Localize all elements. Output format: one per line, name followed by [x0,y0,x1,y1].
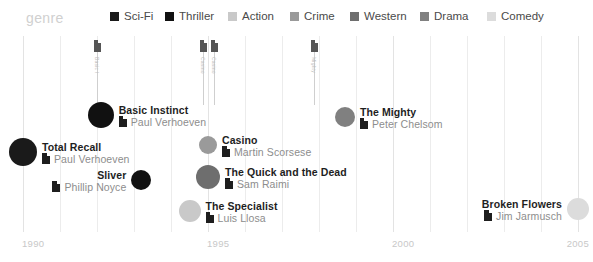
gridline-1990 [23,36,24,232]
legend-item-label: Western [364,11,407,23]
director-name: Paul Verhoeven [131,116,207,129]
gridline-1993 [134,36,135,232]
legend-item-action[interactable]: Action [228,11,274,23]
director-row: Paul Verhoeven [42,153,130,166]
x-axis-label-1995: 1995 [207,238,229,249]
director-row: Luis Llosa [206,212,278,225]
legend-item-drama[interactable]: Drama [420,11,469,23]
legend-item-thriller[interactable]: Thriller [165,11,214,23]
data-point-dot[interactable] [88,102,114,128]
stem-line [214,43,215,105]
x-axis-label-2005: 2005 [567,238,589,249]
data-point-label: CasinoMartin Scorsese [222,134,311,159]
legend-swatch-icon [290,12,299,21]
director-icon [222,149,230,157]
gridline-2000 [393,36,394,232]
chart-canvas: 1990199520002005 Basic ICasinoCasinoMigh… [0,0,593,262]
legend-item-label: Drama [434,11,469,23]
director-icon [119,119,127,127]
stem-line [314,43,315,105]
data-point-label: The Quick and the DeadSam Raimi [225,166,347,191]
legend-title: genre [26,10,64,26]
film-icon [211,43,218,52]
legend-item-sci-fi[interactable]: Sci-Fi [110,11,153,23]
film-title: The Mighty [360,106,443,118]
data-point-dot[interactable] [199,136,217,154]
director-name: Jim Jarmusch [496,210,562,223]
data-point-label: The MightyPeter Chelsom [360,106,443,131]
film-title: The Quick and the Dead [225,166,347,178]
film-title: Total Recall [42,141,130,153]
data-point-dot[interactable] [567,198,589,220]
legend-item-label: Action [242,11,274,23]
film-title: Sliver [52,169,126,181]
data-point-label: SliverPhillip Noyce [52,169,126,194]
film-title: Broken Flowers [482,198,562,210]
gridline-1998 [319,36,320,232]
stem-line [203,43,204,105]
film-icon [200,43,207,52]
director-icon [42,156,50,164]
legend-swatch-icon [487,12,496,21]
legend-item-label: Crime [304,11,335,23]
legend: genre Sci-FiThrillerActionCrimeWesternDr… [0,0,593,34]
data-point-dot[interactable] [196,165,220,189]
stem-line [97,43,98,105]
gridline-2002 [467,36,468,232]
director-name: Peter Chelsom [372,118,443,131]
data-point-label: Basic InstinctPaul Verhoeven [119,104,207,129]
gridline-1991 [60,36,61,232]
legend-item-label: Comedy [501,11,544,23]
data-point-dot[interactable] [9,138,37,166]
legend-item-western[interactable]: Western [350,11,407,23]
legend-swatch-icon [228,12,237,21]
film-title: Casino [222,134,311,146]
legend-item-label: Sci-Fi [124,11,153,23]
director-icon [484,213,492,221]
legend-item-crime[interactable]: Crime [290,11,335,23]
stem-label: Casino [200,57,206,74]
legend-item-label: Thriller [179,11,214,23]
director-row: Jim Jarmusch [482,210,562,223]
director-icon [360,121,368,129]
stem-label: Basic I [94,57,100,73]
plot-area: 1990199520002005 Basic ICasinoCasinoMigh… [0,0,593,262]
director-icon [52,184,60,192]
gridline-1994 [171,36,172,232]
data-point-dot[interactable] [335,107,355,127]
director-row: Sam Raimi [225,178,347,191]
legend-swatch-icon [420,12,429,21]
director-name: Paul Verhoeven [54,153,130,166]
data-point-label: Total RecallPaul Verhoeven [42,141,130,166]
data-point-dot[interactable] [179,200,201,222]
legend-item-comedy[interactable]: Comedy [487,11,544,23]
director-row: Peter Chelsom [360,118,443,131]
stem-label: Casino [211,57,217,74]
director-name: Luis Llosa [218,212,266,225]
legend-swatch-icon [165,12,174,21]
gridline-2001 [430,36,431,232]
director-name: Sam Raimi [237,178,289,191]
x-axis-label-1990: 1990 [22,238,44,249]
data-point-label: The SpecialistLuis Llosa [206,200,278,225]
director-icon [206,215,214,223]
stem-label: Mighty [311,57,317,73]
legend-swatch-icon [350,12,359,21]
legend-swatch-icon [110,12,119,21]
gridline-1999 [356,36,357,232]
director-name: Martin Scorsese [234,146,311,159]
data-point-label: Broken FlowersJim Jarmusch [482,198,562,223]
director-row: Phillip Noyce [52,181,126,194]
data-point-dot[interactable] [131,170,151,190]
director-row: Paul Verhoeven [119,116,207,129]
director-name: Phillip Noyce [64,181,126,194]
film-title: Basic Instinct [119,104,207,116]
film-icon [94,43,101,52]
director-icon [225,181,233,189]
film-title: The Specialist [206,200,278,212]
director-row: Martin Scorsese [222,146,311,159]
film-icon [311,43,318,52]
x-axis-label-2000: 2000 [392,238,414,249]
